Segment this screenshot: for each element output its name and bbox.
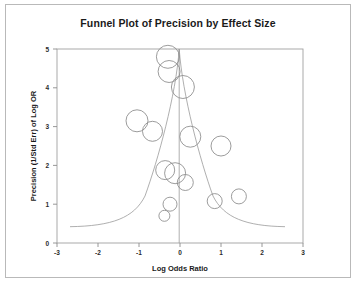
data-point-marker — [207, 194, 222, 209]
x-tick-label-neg3: -3 — [54, 249, 60, 256]
y-axis-ticks — [53, 49, 57, 243]
y-tick-label-5: 5 — [45, 46, 49, 53]
data-point-marker — [126, 110, 148, 132]
data-point-marker — [165, 163, 186, 184]
x-axis-ticks — [57, 243, 303, 247]
data-points-layer — [126, 45, 246, 221]
plot-frame — [57, 49, 303, 243]
x-tick-label-1: 1 — [219, 249, 223, 256]
y-tick-label-0: 0 — [45, 240, 49, 247]
data-point-marker — [211, 136, 231, 156]
y-axis-title: Precision (1/Std Err) of Log OR — [29, 90, 38, 201]
y-tick-label-1: 1 — [45, 201, 49, 208]
x-tick-label-0: 0 — [178, 249, 182, 256]
x-tick-label-neg2: -2 — [95, 249, 101, 256]
x-tick-label-2: 2 — [260, 249, 264, 256]
data-point-marker — [159, 210, 170, 221]
x-tick-label-3: 3 — [301, 249, 305, 256]
y-tick-label-2: 2 — [45, 162, 49, 169]
x-tick-label-neg1: -1 — [136, 249, 142, 256]
x-axis-title: Log Odds Ratio — [152, 264, 208, 273]
funnel-left-bound — [70, 49, 179, 227]
y-tick-label-4: 4 — [45, 84, 49, 91]
plot-canvas: 0 1 2 3 4 5 -3 -2 -1 0 1 2 3 Log Odds Ra… — [0, 0, 356, 283]
data-point-marker — [143, 121, 163, 141]
y-tick-label-3: 3 — [45, 123, 49, 130]
funnel-plot-figure: Funnel Plot of Precision by Effect Size … — [0, 0, 356, 283]
data-point-marker — [163, 197, 177, 211]
data-point-marker — [180, 126, 201, 147]
data-point-marker — [231, 189, 246, 204]
